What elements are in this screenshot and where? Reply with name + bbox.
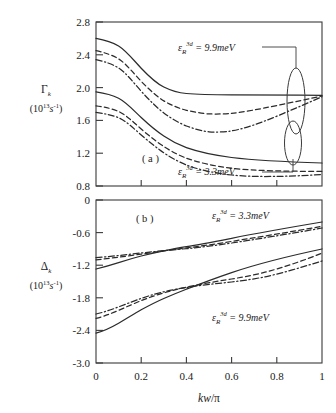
figure-svg: 2.8 2.4 2.0 1.6 1.2 0.8 Γk (1013s-1) ( a… — [0, 0, 336, 413]
xtick-0: 0 — [93, 370, 99, 382]
xtick-3: 0.6 — [225, 370, 239, 382]
panel-b-ytick-5: -3.0 — [73, 357, 91, 369]
curve-a-eps99-dashdot — [96, 60, 322, 132]
panel-a-ytitle-sub: k — [48, 90, 52, 98]
panel-b: 0 -0.6 -1.2 -1.8 -2.4 -3.0 Δk (1013s-1) … — [30, 194, 325, 404]
panel-b-y-axis-title: Δk (1013s-1) — [30, 260, 63, 292]
panel-b-ytitle-sym: Δ — [41, 260, 48, 272]
panel-b-ytick-3: -1.8 — [73, 292, 91, 304]
xtick-1: 0.2 — [134, 370, 148, 382]
svg-text:Γk: Γk — [41, 83, 52, 98]
panel-a-yunits: (1013s-1) — [30, 102, 63, 115]
panel-a-ytick-3: 1.6 — [76, 114, 90, 126]
svg-text:Δk: Δk — [41, 260, 52, 275]
panel-a-x-ticks — [141, 180, 277, 186]
panel-b-annotation-upper: εR3d = 3.3meV — [212, 208, 271, 224]
panel-b-frame — [96, 200, 322, 363]
panel-a-y-axis-title: Γk (1013s-1) — [30, 83, 63, 115]
panel-b-ytick-2: -1.2 — [73, 259, 90, 271]
xtick-5: 1 — [319, 370, 325, 382]
panel-a: 2.8 2.4 2.0 1.6 1.2 0.8 Γk (1013s-1) ( a… — [30, 16, 322, 192]
panel-b-x-ticks — [141, 357, 277, 363]
curve-b-eps99-solid — [96, 249, 322, 333]
panel-a-oval-lower — [285, 121, 302, 165]
figure-container: 2.8 2.4 2.0 1.6 1.2 0.8 Γk (1013s-1) ( a… — [0, 0, 336, 413]
panel-a-ytick-2: 2.0 — [76, 82, 90, 94]
curve-b-eps33-solid — [96, 222, 322, 269]
xtick-4: 0.8 — [270, 370, 284, 382]
panel-a-ytick-1: 2.4 — [76, 49, 90, 61]
panel-a-leader-upper — [262, 47, 296, 68]
panel-b-yunits: (1013s-1) — [30, 279, 63, 292]
xtick-2: 0.4 — [180, 370, 194, 382]
panel-a-label: ( a ) — [142, 153, 159, 165]
panel-b-ytick-1: -0.6 — [73, 227, 91, 239]
panel-b-ytick-4: -2.4 — [73, 324, 91, 336]
panel-a-y-ticks — [96, 22, 103, 186]
panel-b-label: ( b ) — [136, 213, 154, 225]
panel-b-annotation-lower: εR3d = 9.9meV — [212, 310, 271, 326]
panel-a-ytick-0: 2.8 — [76, 16, 90, 28]
x-axis-title: kw/π — [198, 392, 220, 404]
panel-b-ytitle-sub: k — [48, 267, 52, 275]
panel-a-ytick-4: 1.2 — [76, 147, 90, 159]
panel-a-annotation-lower: εR3d = 3.3meV — [178, 164, 237, 180]
panel-a-ytick-5: 0.8 — [76, 180, 90, 192]
panel-a-annotation-upper: εR3d = 9.9meV — [178, 40, 237, 56]
curve-b-eps99-dashed — [96, 253, 322, 318]
panel-b-ytick-0: 0 — [85, 194, 91, 206]
panel-b-y-ticks — [96, 200, 103, 363]
